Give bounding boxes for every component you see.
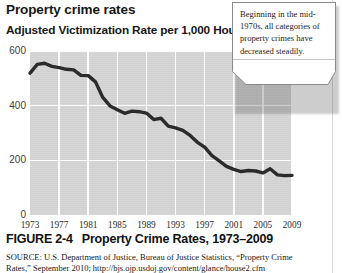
page-title: Property crime rates [6, 2, 135, 17]
figure-title: Property Crime Rates, 1973–2009 [82, 232, 273, 246]
x-axis-tick-label: 1985 [104, 220, 130, 230]
x-axis-tick-label: 1997 [192, 220, 218, 230]
figure-caption: FIGURE 2-4Property Crime Rates, 1973–200… [6, 232, 273, 246]
y-axis-tick-label: 600 [0, 45, 26, 56]
x-axis-tick-label: 2009 [279, 220, 305, 230]
x-axis-tick-label: 1977 [46, 220, 72, 230]
x-axis-tick-label: 2005 [250, 220, 276, 230]
source-line-2: Rates,” September 2010; http://bjs.ojp.u… [6, 263, 336, 273]
figure-number: FIGURE 2-4 [6, 232, 73, 246]
source-line-1: SOURCE: U.S. Department of Justice, Bure… [6, 252, 336, 263]
callout-text: Beginning in the mid-1970s, all categori… [232, 2, 336, 59]
x-axis-tick-label: 1981 [75, 220, 101, 230]
annotation-callout: Beginning in the mid-1970s, all categori… [232, 2, 336, 85]
y-axis-tick-label: 0 [0, 209, 26, 220]
y-axis-tick-label: 200 [0, 154, 26, 165]
x-axis-tick-label: 1973 [17, 220, 43, 230]
figure-source: SOURCE: U.S. Department of Justice, Bure… [6, 252, 336, 273]
x-axis-tick-label: 1993 [163, 220, 189, 230]
y-axis-tick-label: 400 [0, 100, 26, 111]
figure-page: Property crime rates Adjusted Victimizat… [0, 0, 342, 273]
callout-tail [232, 59, 336, 85]
x-axis-tick-label: 2001 [221, 220, 247, 230]
x-axis-tick-label: 1989 [133, 220, 159, 230]
